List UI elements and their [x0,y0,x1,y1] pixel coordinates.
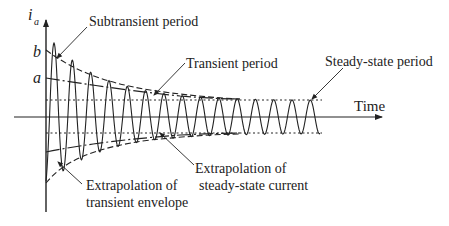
extrap-envelope-leader [58,162,82,184]
steady-state-leader [312,68,343,99]
extrap-steady-leader [160,133,194,165]
level-b-label: b [33,43,41,60]
extrap-envelope-annotation-line1: Extrapolation of [86,178,178,193]
extrap-steady-annotation-line2: steady-state current [199,178,308,193]
y-axis-subscript: a [34,16,39,27]
extrap-steady-annotation-line1: Extrapolation of [195,161,287,176]
level-a-label: a [33,69,41,86]
transient-envelope-lower [46,133,240,152]
short-circuit-current-diagram: i a Time b a Subtransient period Transie… [0,0,449,226]
steady-state-annotation: Steady-state period [325,54,433,69]
y-axis-label: i [28,6,32,23]
transient-annotation: Transient period [186,56,278,71]
subtransient-annotation: Subtransient period [89,14,198,29]
subtransient-leader [57,27,87,58]
transient-leader [154,63,185,95]
x-axis-label: Time [354,98,385,114]
extrap-envelope-annotation-line2: transient envelope [86,195,188,210]
